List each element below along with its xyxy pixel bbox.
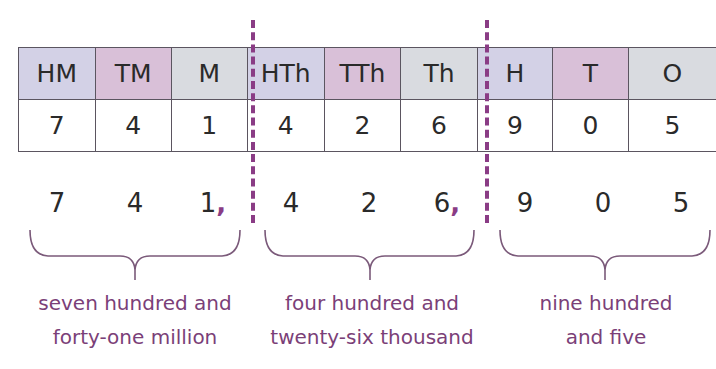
brace-millions-icon	[30, 230, 240, 280]
label-line: four hundred and	[252, 286, 492, 320]
ones-group-label: nine hundred and five	[486, 286, 716, 354]
label-line: seven hundred and	[15, 286, 255, 320]
label-line: twenty-six thousand	[252, 320, 492, 354]
label-line: forty-one million	[15, 320, 255, 354]
brace-thousands-icon	[265, 230, 474, 280]
label-line: and five	[486, 320, 716, 354]
brace-ones-icon	[500, 230, 710, 280]
thousands-group-label: four hundred and twenty-six thousand	[252, 286, 492, 354]
millions-group-label: seven hundred and forty-one million	[15, 286, 255, 354]
label-line: nine hundred	[486, 286, 716, 320]
